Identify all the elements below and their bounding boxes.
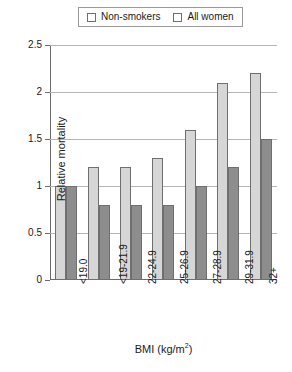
x-axis-title-suffix: ) bbox=[189, 343, 193, 355]
x-tick-label-cell: 32+ bbox=[245, 282, 277, 340]
x-tick-label: <19-21.9 bbox=[119, 244, 129, 284]
y-tick-label: 2.5 bbox=[28, 40, 42, 50]
chart-legend: Non-smokers All women bbox=[78, 7, 243, 27]
x-tick-label: 29-31.9 bbox=[245, 250, 255, 284]
legend-label-non-smokers: Non-smokers bbox=[101, 12, 160, 22]
bar-group bbox=[245, 45, 277, 280]
legend-swatch-non-smokers bbox=[87, 13, 96, 22]
bar bbox=[88, 167, 99, 280]
bar-group bbox=[82, 45, 114, 280]
y-tick-label: 2 bbox=[36, 87, 42, 97]
bar bbox=[66, 186, 77, 280]
bar-group bbox=[147, 45, 179, 280]
x-tick-label: 27-28.9 bbox=[213, 250, 223, 284]
x-tick-label-cell: <19-21.9 bbox=[82, 282, 114, 340]
x-tick-label: 22-24.9 bbox=[148, 250, 158, 284]
legend-label-all-women: All women bbox=[187, 12, 233, 22]
x-tick-label-cell: <19.0 bbox=[50, 282, 82, 340]
x-tick-label-cell: 25-26.9 bbox=[147, 282, 179, 340]
y-tick-label: 1.5 bbox=[28, 134, 42, 144]
x-axis-title-base: BMI (kg/m bbox=[135, 343, 185, 355]
bar-group bbox=[212, 45, 244, 280]
bar-series-container bbox=[50, 45, 277, 280]
bar bbox=[196, 186, 207, 280]
y-axis-title: Relative mortality bbox=[55, 94, 67, 224]
y-tick-label: 0.5 bbox=[28, 228, 42, 238]
legend-swatch-all-women bbox=[173, 13, 182, 22]
y-tick-label: 0 bbox=[36, 275, 42, 285]
x-tick-label-cell: 27-28.9 bbox=[180, 282, 212, 340]
bar bbox=[228, 167, 239, 280]
y-tick-label: 1 bbox=[36, 181, 42, 191]
x-tick-label: 32+ bbox=[269, 267, 279, 284]
x-tick-label-cell: 29-31.9 bbox=[212, 282, 244, 340]
plot-area: 00.511.522.5 Relative mortality bbox=[50, 45, 277, 280]
y-tick-mark bbox=[45, 280, 50, 281]
bar bbox=[163, 205, 174, 280]
legend-item-non-smokers: Non-smokers bbox=[87, 12, 160, 22]
x-axis-title: BMI (kg/m2) bbox=[50, 343, 277, 355]
x-tick-label: 25-26.9 bbox=[180, 250, 190, 284]
bar bbox=[261, 139, 272, 280]
x-axis-tick-labels: <19.0<19-21.922-24.925-26.927-28.929-31.… bbox=[50, 282, 277, 340]
bar-group bbox=[180, 45, 212, 280]
bar-chart: Non-smokers All women 00.511.522.5 Relat… bbox=[0, 0, 292, 372]
legend-item-all-women: All women bbox=[173, 12, 233, 22]
bar bbox=[131, 205, 142, 280]
x-tick-label-cell: 22-24.9 bbox=[115, 282, 147, 340]
x-tick-label: <19.0 bbox=[79, 259, 89, 284]
bar bbox=[250, 73, 261, 280]
bar bbox=[99, 205, 110, 280]
